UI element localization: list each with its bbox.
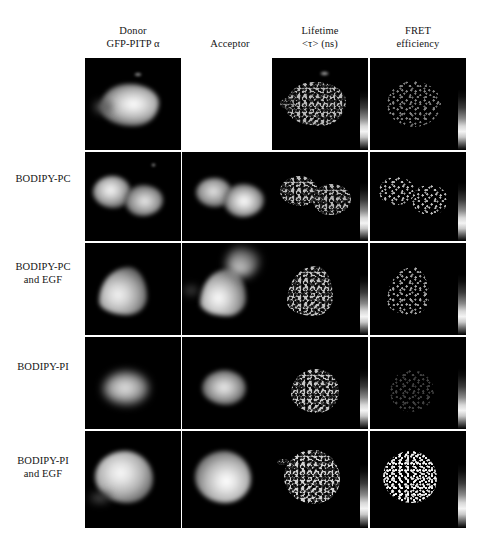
panel-lifetime-bodipy-pi (272, 337, 368, 429)
panel-lifetime-control (272, 58, 368, 150)
row-label-bodipy-pi-egf-line1: BODIPY-PI (2, 455, 84, 468)
cell-body-right (125, 185, 163, 216)
cell-body (99, 267, 147, 315)
panel-donor-bodipy-pi (85, 337, 181, 429)
colorbar-fret (458, 152, 466, 241)
micrograph-donor-bodipy-pi (85, 337, 181, 429)
micrograph-acceptor-bodipy-pi (182, 337, 278, 429)
micrograph-donor-bodipy-pc (85, 152, 181, 241)
figure-panel-grid: Donor GFP-PITP α Acceptor Lifetime <τ> (… (0, 0, 483, 549)
cell-debris (134, 72, 142, 77)
colorbar-fret (458, 337, 466, 429)
panel-acceptor-bodipy-pc (182, 152, 278, 241)
panel-fret-control (370, 58, 466, 150)
panel-fret-bodipy-pc-egf (370, 243, 466, 335)
colorbar-fret (458, 243, 466, 335)
panel-fret-bodipy-pi (370, 337, 466, 429)
column-header-lifetime-line2: <τ> (ns) (272, 37, 368, 50)
panel-fret-bodipy-pi-egf (370, 431, 466, 528)
fret-map-right (412, 185, 448, 215)
column-header-fret: FRET efficiency (370, 24, 466, 50)
panel-acceptor-bodipy-pc-egf (182, 243, 278, 335)
micrograph-fret-bodipy-pi-egf (370, 431, 466, 528)
panel-acceptor-bodipy-pi (182, 337, 278, 429)
row-label-bodipy-pc-egf-line1: BODIPY-PC (2, 261, 84, 274)
fret-map-region (383, 451, 437, 503)
micrograph-donor-bodipy-pi-egf (85, 431, 181, 528)
row-label-bodipy-pi-egf: BODIPY-PI and EGF (2, 455, 84, 480)
micrograph-donor-bodipy-pc-egf (85, 243, 181, 335)
colorbar-lifetime (360, 58, 368, 150)
fret-map-region (387, 267, 429, 315)
panel-acceptor-bodipy-pi-egf (182, 431, 278, 528)
cell-debris (151, 163, 156, 167)
micrograph-lifetime-bodipy-pc-egf (272, 243, 368, 335)
column-header-donor-line2: GFP-PITP α (85, 37, 181, 50)
row-label-bodipy-pc-line1: BODIPY-PC (2, 173, 84, 186)
micrograph-lifetime-bodipy-pi (272, 337, 368, 429)
row-label-bodipy-pc-egf-line2: and EGF (2, 274, 84, 287)
micrograph-acceptor-bodipy-pc (182, 152, 278, 241)
micrograph-lifetime-bodipy-pc (272, 152, 368, 241)
colorbar-lifetime (360, 152, 368, 241)
panel-fret-bodipy-pc (370, 152, 466, 241)
row-label-bodipy-pi-egf-line2: and EGF (2, 468, 84, 481)
cell-body (103, 371, 149, 405)
panel-lifetime-bodipy-pi-egf (272, 431, 368, 528)
lifetime-map-protrusion (280, 98, 296, 109)
column-header-donor: Donor GFP-PITP α (85, 24, 181, 50)
cell-body (195, 451, 251, 503)
colorbar-fret (458, 58, 466, 150)
micrograph-fret-bodipy-pi (370, 337, 466, 429)
row-label-bodipy-pi: BODIPY-PI (2, 361, 84, 374)
colorbar-lifetime (360, 431, 368, 528)
micrograph-acceptor-bodipy-pi-egf (182, 431, 278, 528)
lifetime-map-region (284, 450, 340, 504)
column-header-lifetime: Lifetime <τ> (ns) (272, 24, 368, 50)
lifetime-debris (320, 71, 329, 76)
panel-donor-control (85, 58, 181, 150)
panel-lifetime-bodipy-pc-egf (272, 243, 368, 335)
cell-protrusion (89, 493, 111, 503)
lifetime-map-region (287, 266, 333, 316)
micrograph-fret-bodipy-pc (370, 152, 466, 241)
row-label-bodipy-pc-egf: BODIPY-PC and EGF (2, 261, 84, 286)
cell-protrusion (94, 101, 112, 113)
column-header-fret-line2: efficiency (370, 37, 466, 50)
cell-protrusion (183, 286, 199, 295)
row-label-bodipy-pi-line1: BODIPY-PI (2, 361, 84, 374)
colorbar-lifetime (360, 243, 368, 335)
row-label-bodipy-pc: BODIPY-PC (2, 173, 84, 186)
panel-lifetime-bodipy-pc (272, 152, 368, 241)
micrograph-donor-control (85, 58, 181, 150)
lifetime-map-protrusion (277, 459, 289, 465)
colorbar-lifetime (360, 337, 368, 429)
fret-map-region (390, 370, 434, 412)
column-header-fret-line1: FRET (370, 24, 466, 37)
colorbar-fret (458, 431, 466, 528)
micrograph-acceptor-bodipy-pc-egf (182, 243, 278, 335)
column-header-acceptor-line1: Acceptor (182, 37, 278, 50)
micrograph-lifetime-bodipy-pi-egf (272, 431, 368, 528)
micrograph-fret-control (370, 58, 466, 150)
cell-body-right (224, 184, 264, 217)
lifetime-map-right (313, 184, 351, 215)
column-header-lifetime-line1: Lifetime (272, 24, 368, 37)
panel-acceptor-control-absent (182, 58, 278, 150)
panel-donor-bodipy-pc (85, 152, 181, 241)
micrograph-fret-bodipy-pc-egf (370, 243, 466, 335)
fret-map-region (387, 81, 441, 127)
fret-map-left (379, 177, 415, 205)
panel-donor-bodipy-pi-egf (85, 431, 181, 528)
micrograph-lifetime-control (272, 58, 368, 150)
panel-donor-bodipy-pc-egf (85, 243, 181, 335)
column-header-donor-line1: Donor (85, 24, 181, 37)
neighbour-cell (226, 247, 260, 277)
column-header-acceptor: Acceptor (182, 37, 278, 50)
lifetime-map-region (291, 369, 339, 413)
cell-body (202, 370, 246, 405)
